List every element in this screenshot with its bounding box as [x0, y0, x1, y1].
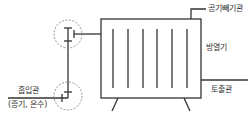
upper-valve-symbol	[64, 28, 74, 41]
inlet-label: 흡입관	[18, 87, 39, 95]
radiator-label: 방열기	[206, 44, 227, 52]
radiator-body	[101, 19, 201, 98]
lower-fitting-symbol	[62, 92, 72, 102]
radiator-leg-left	[112, 98, 118, 111]
inlet-note-label: (증기, 온수)	[8, 101, 47, 109]
air-vent-pipe	[191, 9, 206, 19]
air-vent-label: 공기빼기관	[208, 5, 243, 13]
radiator-fins	[113, 29, 187, 88]
discharge-label: 토출관	[211, 86, 232, 94]
radiator-leg-right	[184, 98, 190, 111]
